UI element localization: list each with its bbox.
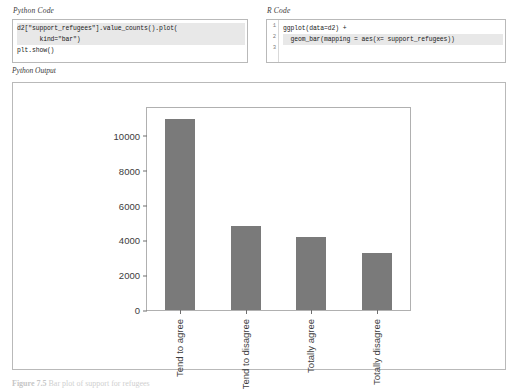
y-axis-tick-label: 6000: [119, 200, 147, 211]
x-axis-tick-label: Totally agree: [305, 319, 316, 373]
bar: [296, 237, 326, 310]
y-axis-tick-label: 2000: [119, 270, 147, 281]
bar: [165, 119, 195, 310]
figure-caption: Figure 7.5 Bar plot of support for refug…: [12, 379, 492, 390]
figure-number: Figure 7.5: [12, 379, 47, 388]
x-axis-tick-label: Tend to agree: [173, 319, 184, 377]
line-number: 1: [267, 20, 278, 31]
python-code-lines: d2["support_refugees"].value_counts().pl…: [17, 23, 245, 56]
bar-chart: 0200040006000800010000 Tend to agreeTend…: [13, 83, 507, 369]
line-number-gutter: 1 2 3: [267, 20, 279, 62]
x-axis-tick: [377, 310, 378, 314]
x-axis-tick-label: Totally disagree: [371, 319, 382, 385]
y-axis-tick-label: 10000: [114, 130, 147, 141]
python-code-section: Python Code d2["support_refugees"].value…: [12, 6, 248, 63]
figure-page: Python Code d2["support_refugees"].value…: [0, 0, 518, 390]
r-code-box[interactable]: 1 2 3 ggplot(data=d2) + geom_bar(mapping…: [266, 19, 506, 63]
y-axis-tick-label: 0: [135, 305, 147, 316]
code-line: kind="bar"): [17, 34, 245, 45]
code-line: d2["support_refugees"].value_counts().pl…: [17, 23, 245, 34]
plot-frame: 0200040006000800010000: [146, 107, 411, 311]
x-axis-tick: [180, 310, 181, 314]
code-line: plt.show(): [17, 45, 245, 56]
line-number: 2: [267, 31, 278, 42]
r-code-section: R Code 1 2 3 ggplot(data=d2) + geom_bar(…: [266, 6, 506, 63]
x-axis-tick: [246, 310, 247, 314]
r-code-label: R Code: [267, 6, 506, 15]
y-axis-tick-label: 8000: [119, 165, 147, 176]
python-code-label: Python Code: [13, 6, 248, 15]
bar: [231, 226, 261, 310]
line-number: 3: [267, 42, 278, 53]
y-axis-tick-label: 4000: [119, 235, 147, 246]
r-code-lines: ggplot(data=d2) + geom_bar(mapping = aes…: [283, 23, 503, 56]
python-output-label: Python Output: [12, 66, 56, 75]
python-code-box[interactable]: d2["support_refugees"].value_counts().pl…: [12, 19, 248, 63]
x-axis-tick: [311, 310, 312, 314]
code-line: [283, 45, 503, 56]
bar: [362, 253, 392, 310]
figure-caption-text: Bar plot of support for refugees: [49, 379, 150, 388]
python-output-box: 0200040006000800010000 Tend to agreeTend…: [12, 82, 506, 370]
code-line: geom_bar(mapping = aes(x= support_refuge…: [283, 34, 503, 45]
code-line: ggplot(data=d2) +: [283, 23, 503, 34]
